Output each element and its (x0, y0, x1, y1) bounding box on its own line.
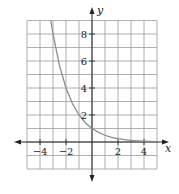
series-line-exponential-decay (51, 21, 157, 142)
x-tick-label: −2 (59, 146, 74, 157)
y-tick-label: 8 (81, 29, 87, 40)
y-tick-label: 2 (81, 110, 87, 121)
x-axis-label: x (165, 142, 172, 155)
exponential-graph: −4−2242468 x y (0, 0, 179, 194)
y-tick-label: 4 (81, 83, 87, 94)
x-tick-label: 4 (141, 146, 147, 157)
x-axis-left-arrow-icon (14, 140, 21, 145)
y-axis-label: y (96, 4, 104, 17)
y-axis-down-arrow-icon (90, 175, 95, 182)
x-tick-label: 2 (115, 146, 121, 157)
y-axis-up-arrow-icon (90, 7, 95, 14)
y-tick-label: 6 (81, 56, 87, 67)
x-tick-label: −4 (33, 146, 48, 157)
